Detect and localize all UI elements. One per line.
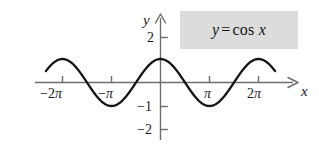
x-tick-label-pi: π bbox=[204, 87, 211, 101]
equation-argument: x bbox=[259, 21, 266, 38]
x-tick-label-minus-pi: −π bbox=[98, 87, 113, 101]
y-axis bbox=[156, 14, 166, 140]
equation-label-text: y=cos x bbox=[212, 21, 266, 39]
x-tick-label-2pi: 2π bbox=[247, 87, 261, 101]
y-tick-label-minus-2: −2 bbox=[137, 123, 152, 137]
y-axis-ticks bbox=[161, 38, 169, 130]
y-tick-label-2: 2 bbox=[147, 31, 154, 45]
y-tick-label-minus-1: −1 bbox=[137, 100, 152, 114]
equation-function: cos bbox=[233, 21, 255, 38]
x-tick-label-minus-2pi: −2π bbox=[40, 87, 62, 101]
cosine-graph-figure: y=cos x y x −2π −π π 2π 2 −1 −2 bbox=[0, 0, 319, 150]
equation-label-box: y=cos x bbox=[180, 11, 298, 49]
x-axis-name: x bbox=[301, 84, 308, 99]
y-axis-name: y bbox=[143, 13, 150, 28]
equation-operator: = bbox=[219, 21, 232, 38]
